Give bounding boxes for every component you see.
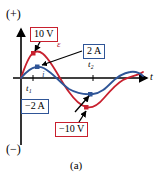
callout-peak-voltage: 10 V [30, 27, 58, 42]
figure-caption: (a) [70, 160, 82, 171]
emf-negative-peak-marker [84, 105, 89, 110]
callout-negative-peak-voltage: −10 V [55, 122, 88, 137]
current-curve-label: i [42, 70, 45, 79]
tick-label-t1: t₁ [26, 84, 32, 93]
callout-negative-peak-current: −2 A [21, 99, 49, 114]
current-positive-peak-marker [35, 65, 40, 70]
current-curve [21, 67, 143, 94]
callout-peak-current: 2 A [83, 44, 105, 59]
leader-neg2a [75, 96, 89, 112]
polarity-negative-label: (−) [6, 143, 21, 155]
leader-neg10v [79, 111, 86, 122]
time-axis-label: t [150, 72, 153, 82]
ac-voltage-current-waveform-figure [0, 0, 165, 179]
emf-positive-peak-marker [31, 51, 36, 56]
polarity-positive-label: (+) [6, 8, 21, 20]
tick-label-t2: t₂ [88, 60, 94, 69]
